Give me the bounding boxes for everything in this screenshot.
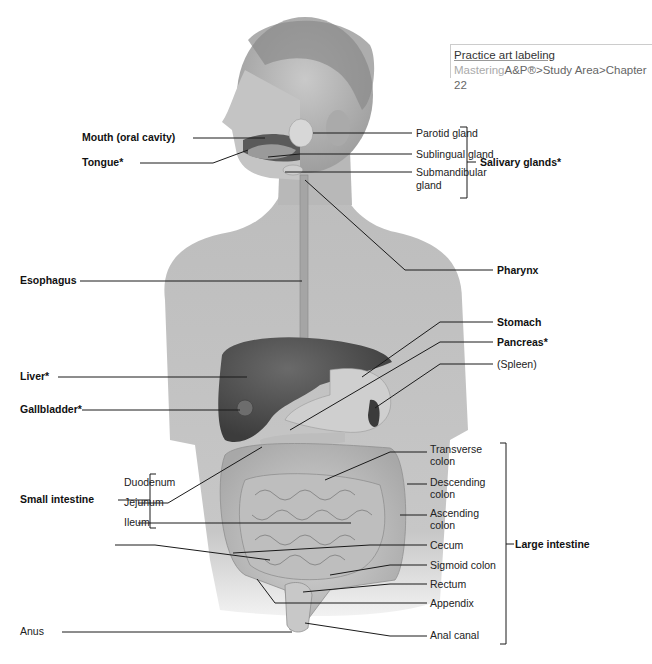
label-descending-colon-2: colon — [430, 488, 455, 501]
label-ileum: Ileum — [124, 516, 150, 529]
label-esophagus: Esophagus — [20, 274, 77, 287]
label-anal-canal: Anal canal — [430, 629, 479, 642]
label-sigmoid-colon: Sigmoid colon — [430, 559, 496, 572]
practice-note: Practice art labeling MasteringA&P®>Stud… — [454, 48, 652, 93]
label-large-intestine: Large intestine — [515, 538, 590, 551]
label-submandibular-gland-1: Submandibular — [416, 166, 487, 179]
practice-note-path: MasteringA&P®>Study Area>Chapter 22 — [454, 63, 652, 93]
label-ascending-colon-2: colon — [430, 519, 455, 532]
path-brand: Mastering — [454, 64, 505, 76]
label-rectum: Rectum — [430, 578, 466, 591]
label-tongue: Tongue* — [82, 156, 123, 169]
label-jejunum: Jejunum — [124, 496, 164, 509]
note-border-left — [450, 44, 451, 78]
label-small-intestine: Small intestine — [20, 493, 94, 506]
label-appendix: Appendix — [430, 597, 474, 610]
anatomy-illustration — [0, 0, 652, 664]
label-liver: Liver* — [20, 370, 49, 383]
label-gallbladder: Gallbladder* — [20, 403, 82, 416]
label-pancreas: Pancreas* — [497, 336, 548, 349]
label-mouth: Mouth (oral cavity) — [82, 131, 175, 144]
label-parotid-gland: Parotid gland — [416, 127, 478, 140]
label-pharynx: Pharynx — [497, 264, 538, 277]
label-duodenum: Duodenum — [124, 476, 175, 489]
label-spleen: (Spleen) — [497, 358, 537, 371]
label-anus: Anus — [20, 625, 44, 638]
practice-note-title[interactable]: Practice art labeling — [454, 48, 652, 63]
label-cecum: Cecum — [430, 539, 463, 552]
label-salivary-glands: Salivary glands* — [480, 156, 561, 169]
label-stomach: Stomach — [497, 316, 541, 329]
label-transverse-colon-2: colon — [430, 455, 455, 468]
label-submandibular-gland-2: gland — [416, 179, 442, 192]
note-border-top — [450, 44, 652, 45]
